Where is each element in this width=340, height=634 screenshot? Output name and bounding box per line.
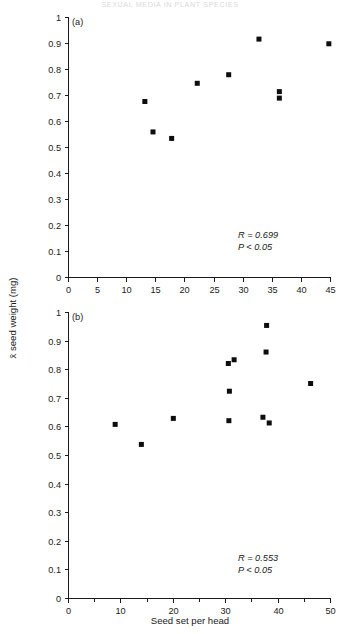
data-point	[171, 416, 176, 421]
panel-b-y-tick-label: 0.5	[48, 451, 61, 461]
panel-a: 00.10.20.30.40.50.60.70.80.91 0510152025…	[48, 13, 335, 295]
panel-a-x-tick-label: 5	[95, 285, 100, 295]
panel-a-y-tick-label: 0.6	[48, 117, 61, 127]
data-point	[169, 136, 174, 141]
panel-a-y-tick-label: 0.3	[48, 195, 61, 205]
panel-b-y-tick-label: 0.8	[48, 365, 61, 375]
panel-b-y-tick-label: 0.7	[48, 394, 61, 404]
panel-a-y-tick-label: 0	[56, 273, 61, 283]
panel-b-x-tick-label: 40	[273, 606, 283, 616]
panel-a-y-tick-label: 0.7	[48, 91, 61, 101]
data-point	[277, 89, 282, 94]
panel-a-y-tick-label: 0.9	[48, 39, 61, 49]
data-point	[256, 37, 261, 42]
data-point	[226, 418, 231, 423]
panel-a-x-tick-label: 45	[325, 285, 335, 295]
panel-b-y-tick-label: 0.3	[48, 508, 61, 518]
panel-a-stat-r: R = 0.699	[238, 230, 278, 240]
data-point	[264, 350, 269, 355]
panel-b-y-tick-label: 0.9	[48, 337, 61, 347]
panel-b-stat-r: R = 0.553	[238, 553, 279, 563]
panel-a-y-tick-label: 0.1	[48, 247, 61, 257]
data-point	[139, 442, 144, 447]
data-point	[195, 81, 200, 86]
panel-a-y-tick-labels: 00.10.20.30.40.50.60.70.80.91	[48, 13, 61, 283]
data-point	[260, 415, 265, 420]
data-point	[277, 96, 282, 101]
panel-b: 00.10.20.30.40.50.60.70.80.91 0102030405…	[48, 308, 335, 616]
data-point	[142, 99, 147, 104]
panel-a-x-tick-label: 0	[66, 285, 71, 295]
panel-a-x-tick-label: 20	[179, 285, 189, 295]
panel-a-axes	[65, 18, 331, 282]
panel-a-y-tick-label: 1	[56, 13, 61, 23]
panel-b-y-tick-labels: 00.10.20.30.40.50.60.70.80.91	[48, 308, 61, 604]
data-point	[226, 361, 231, 366]
panel-a-x-tick-label: 10	[121, 285, 131, 295]
panel-b-y-tick-label: 1	[56, 308, 61, 318]
panel-b-y-tick-label: 0.6	[48, 422, 61, 432]
panel-a-stat-p: P < 0.05	[238, 242, 273, 252]
data-point	[227, 389, 232, 394]
panel-a-x-tick-label: 25	[209, 285, 219, 295]
data-point	[113, 422, 118, 427]
panel-b-y-tick-label: 0.2	[48, 537, 61, 547]
panel-a-y-tick-label: 0.2	[48, 221, 61, 231]
x-axis-title: Seed set per head	[151, 615, 229, 626]
data-point	[264, 323, 269, 328]
panel-b-y-tick-label: 0.4	[48, 480, 61, 490]
panel-b-label: (b)	[72, 312, 83, 322]
scatter-figure: 00.10.20.30.40.50.60.70.80.91 0510152025…	[0, 0, 340, 634]
data-point	[326, 41, 331, 46]
data-point	[151, 129, 156, 134]
data-point	[308, 381, 313, 386]
panel-a-data-points	[142, 37, 331, 141]
panel-a-x-tick-labels: 051015202530354045	[66, 285, 336, 295]
panel-a-x-tick-label: 40	[296, 285, 306, 295]
panel-b-axes	[65, 313, 331, 603]
panel-a-y-tick-label: 0.5	[48, 143, 61, 153]
panel-b-x-tick-label: 0	[66, 606, 71, 616]
y-axis-title: x̄ seed weight (mg)	[7, 277, 18, 358]
data-point	[232, 357, 237, 362]
data-point	[267, 420, 272, 425]
panel-b-data-points	[113, 323, 313, 447]
panel-b-x-tick-label: 10	[115, 606, 125, 616]
panel-b-y-tick-label: 0	[56, 594, 61, 604]
panel-a-label: (a)	[72, 17, 83, 27]
panel-b-y-tick-label: 0.1	[48, 565, 61, 575]
panel-b-stat-p: P < 0.05	[238, 565, 273, 575]
panel-a-x-tick-label: 30	[238, 285, 248, 295]
data-point	[226, 72, 231, 77]
panel-a-x-tick-label: 35	[267, 285, 277, 295]
panel-a-y-tick-label: 0.4	[48, 169, 61, 179]
panel-b-x-tick-label: 50	[325, 606, 335, 616]
panel-a-y-tick-label: 0.8	[48, 65, 61, 75]
panel-a-x-tick-label: 15	[150, 285, 160, 295]
